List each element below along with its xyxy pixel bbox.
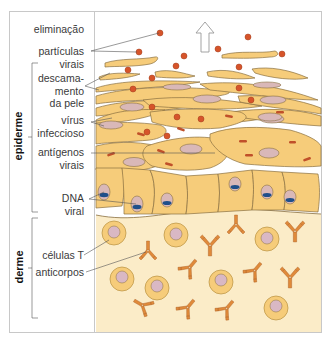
label-viral-antigens: antígenos virais (38, 146, 84, 171)
label-line: virais (38, 58, 84, 71)
shedding-arrow-icon (196, 22, 214, 52)
basal-cells (96, 168, 320, 214)
label-line: partículas (38, 45, 84, 58)
layer-label-epidermis: epiderme (12, 112, 24, 161)
label-shedding: eliminação (34, 23, 84, 36)
label-line: infeccioso (37, 127, 84, 140)
shed-skin-flakes (99, 51, 308, 80)
label-viral-dna: DNA viral (62, 192, 84, 217)
layer-brackets (28, 63, 38, 318)
label-line: mento (38, 85, 84, 98)
label-infectious-virus: vírus infeccioso (37, 114, 84, 139)
label-line: descama- (38, 72, 84, 85)
label-line: antígenos (38, 146, 84, 159)
label-line: vírus (37, 114, 84, 127)
label-antibodies: anticorpos (36, 266, 84, 279)
label-line: DNA (62, 192, 84, 205)
layer-label-dermis: derme (13, 250, 25, 283)
label-line: virais (38, 159, 84, 172)
label-t-cells: células T (42, 249, 84, 262)
label-desquamation: descama- mento da pele (38, 72, 84, 110)
label-line: da pele (38, 97, 84, 110)
label-viral-particles: partículas virais (38, 45, 84, 70)
label-line: viral (62, 205, 84, 218)
